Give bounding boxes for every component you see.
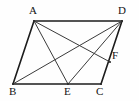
- vertex-dot-a: [33, 20, 35, 22]
- vertex-label-f: F: [112, 50, 118, 61]
- vertex-label-b: B: [9, 86, 16, 97]
- geometry-figure: ADBCEF: [0, 0, 139, 101]
- vertex-label-e: E: [64, 86, 71, 97]
- segment-bd: [13, 21, 122, 84]
- vertex-label-d: D: [118, 5, 126, 16]
- segment-layer: [13, 21, 122, 84]
- vertex-dot-f: [109, 61, 111, 63]
- vertex-label-c: C: [96, 86, 103, 97]
- segment-ab: [13, 21, 34, 84]
- vertex-label-a: A: [29, 5, 37, 16]
- vertex-dot-d: [121, 20, 123, 22]
